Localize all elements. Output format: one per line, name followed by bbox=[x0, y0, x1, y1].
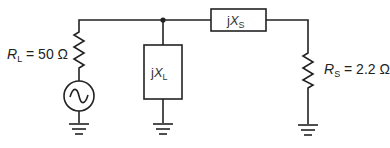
sine-wave-icon bbox=[70, 89, 88, 102]
load-resistor-zigzag bbox=[74, 28, 84, 81]
top-wire-left bbox=[79, 20, 211, 28]
source-resistor-label: RS = 2.2 Ω bbox=[324, 61, 390, 79]
source-resistor-zigzag bbox=[303, 50, 313, 124]
ground-icon-middle bbox=[153, 124, 173, 134]
ground-icon-left bbox=[69, 124, 89, 134]
series-reactance-label: jXS bbox=[226, 13, 245, 30]
ground-icon-right bbox=[298, 125, 318, 135]
load-resistor-label: RL = 50 Ω bbox=[7, 46, 68, 64]
shunt-reactance-label: jXL bbox=[150, 65, 168, 82]
top-wire-right bbox=[266, 20, 308, 50]
circuit-diagram: RL = 50 Ω jXL jXS RS = 2.2 Ω bbox=[0, 0, 390, 148]
